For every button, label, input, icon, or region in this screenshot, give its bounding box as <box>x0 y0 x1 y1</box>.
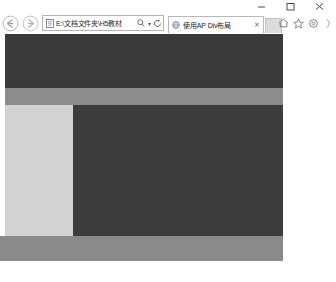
address-input[interactable]: E:\文档文件夹\H5教材 <box>56 18 135 28</box>
forward-arrow-icon[interactable] <box>21 14 40 33</box>
ap-div-sidebar <box>5 105 73 236</box>
search-icon[interactable] <box>135 16 146 30</box>
page-icon <box>44 17 55 29</box>
maximize-button[interactable] <box>276 0 305 13</box>
back-arrow-icon[interactable] <box>1 14 20 33</box>
ap-div-footer-band <box>0 236 283 261</box>
tab-active[interactable]: 使用AP Div布局 ✕ <box>168 16 264 33</box>
overflow-icon[interactable] <box>321 16 335 30</box>
home-icon[interactable] <box>276 16 290 30</box>
address-bar[interactable]: E:\文档文件夹\H5教材 ▾ <box>42 15 164 31</box>
ap-div-main-content <box>73 105 283 236</box>
ap-div-header-banner <box>5 34 283 88</box>
tab-strip: 使用AP Div布局 ✕ <box>168 13 276 33</box>
tab-title: 使用AP Div布局 <box>183 20 253 30</box>
page-viewport <box>0 33 336 282</box>
toolbar-right <box>276 16 335 30</box>
refresh-icon[interactable] <box>152 16 163 30</box>
close-button[interactable] <box>305 0 334 13</box>
title-bar <box>0 0 336 13</box>
minimize-button[interactable] <box>247 0 276 13</box>
window-controls <box>247 0 334 13</box>
globe-icon <box>171 20 181 30</box>
browser-toolbar: E:\文档文件夹\H5教材 ▾ <box>0 13 336 33</box>
ap-div-nav-band <box>5 88 283 105</box>
tools-gear-icon[interactable] <box>306 16 320 30</box>
browser-window: E:\文档文件夹\H5教材 ▾ <box>0 0 336 282</box>
close-icon[interactable]: ✕ <box>253 21 261 29</box>
favorites-star-icon[interactable] <box>291 16 305 30</box>
